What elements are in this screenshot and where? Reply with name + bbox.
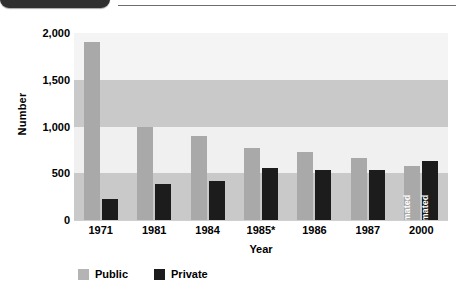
bar-annotation-estimated: estimated <box>420 195 430 220</box>
chart-figure: Number 05001,0001,5002,000 estimatedesti… <box>0 0 460 292</box>
y-axis-ticks: 05001,0001,5002,000 <box>18 0 70 292</box>
chart-legend: PublicPrivate <box>78 267 208 281</box>
bar-public-1981 <box>137 127 153 221</box>
x-tick-label: 1986 <box>302 224 326 236</box>
legend-label: Public <box>95 268 128 280</box>
bar-private-1986 <box>315 170 331 220</box>
x-tick-label: 1971 <box>88 224 112 236</box>
bar-private-1985 <box>262 168 278 220</box>
legend-label: Private <box>171 268 208 280</box>
y-tick-label: 1,500 <box>18 74 70 86</box>
y-tick-label: 500 <box>18 167 70 179</box>
bar-public-2000: estimated <box>404 166 420 220</box>
bar-public-1971 <box>84 42 100 220</box>
bar-group: estimatedestimated <box>74 33 448 220</box>
y-tick-label: 2,000 <box>18 27 70 39</box>
x-tick-label: 1984 <box>195 224 219 236</box>
bar-private-1987 <box>369 170 385 220</box>
bar-private-2000: estimated <box>422 161 438 220</box>
x-axis-ticks: 1971198119841985*198619872000 <box>74 224 448 242</box>
x-axis-line <box>74 220 448 221</box>
legend-item-public: Public <box>78 268 128 280</box>
legend-swatch-icon <box>154 269 165 280</box>
bar-private-1984 <box>209 181 225 220</box>
legend-swatch-icon <box>78 269 89 280</box>
bar-public-1984 <box>191 136 207 220</box>
x-tick-label: 2000 <box>409 224 433 236</box>
bar-public-1985 <box>244 148 260 220</box>
bar-public-1987 <box>351 158 367 220</box>
legend-item-private: Private <box>154 268 208 280</box>
y-tick-label: 0 <box>18 214 70 226</box>
bar-private-1981 <box>155 184 171 220</box>
x-axis-title: Year <box>74 243 448 255</box>
bar-private-1971 <box>102 199 118 220</box>
bar-public-1986 <box>297 152 313 220</box>
x-tick-label: 1987 <box>356 224 380 236</box>
header-divider <box>118 5 456 6</box>
bar-annotation-estimated: estimated <box>402 195 412 220</box>
x-tick-label: 1985* <box>247 224 276 236</box>
plot-area: estimatedestimated <box>74 33 448 220</box>
x-tick-label: 1981 <box>142 224 166 236</box>
y-tick-label: 1,000 <box>18 121 70 133</box>
